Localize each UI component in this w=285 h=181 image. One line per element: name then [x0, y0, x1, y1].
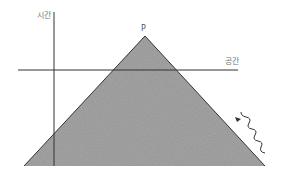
apex-point-label: P — [141, 25, 146, 33]
space-axis-label: 공간 — [225, 58, 239, 66]
time-axis-label: 시간 — [37, 12, 51, 20]
past-light-cone — [24, 36, 265, 166]
light-cone-diagram: 시간 공간 P — [0, 0, 285, 181]
